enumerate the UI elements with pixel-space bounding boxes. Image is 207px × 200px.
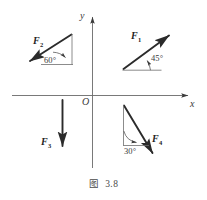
y-axis-label: y [80,11,84,21]
force-label-f1: F1 [131,31,141,41]
origin-label: O [82,97,89,107]
force-label-f4-index: 4 [159,139,162,146]
force-label-f2-letter: F [33,35,40,46]
figure-container: y x O F1 45° F2 60° F3 F4 30° 图3.8 [0,0,207,200]
angle-label-f2: 60° [44,56,56,65]
force-label-f1-letter: F [131,30,138,41]
force-label-f2: F2 [33,36,43,46]
force-label-f4-letter: F [152,133,159,144]
force-label-f4: F4 [152,134,162,144]
force-diagram [0,0,207,200]
force-label-f1-index: 1 [138,36,141,43]
angle-label-f4: 30° [124,147,136,156]
force-label-f3-index: 3 [48,142,51,149]
force-label-f2-index: 2 [40,41,43,48]
caption-prefix: 图 [89,179,100,189]
force-label-f3-letter: F [41,136,48,147]
caption-number: 3.8 [105,179,118,189]
angle-label-f1: 45° [151,54,163,63]
force-label-f3: F3 [41,137,51,147]
x-axis-label: x [190,99,194,109]
figure-caption: 图3.8 [0,176,207,190]
